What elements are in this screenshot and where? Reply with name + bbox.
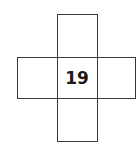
cell-bottom — [57, 98, 98, 142]
cell-center-value: 19 — [57, 57, 97, 98]
cell-top — [57, 14, 98, 58]
cell-left — [17, 57, 58, 99]
cell-right — [96, 57, 136, 99]
